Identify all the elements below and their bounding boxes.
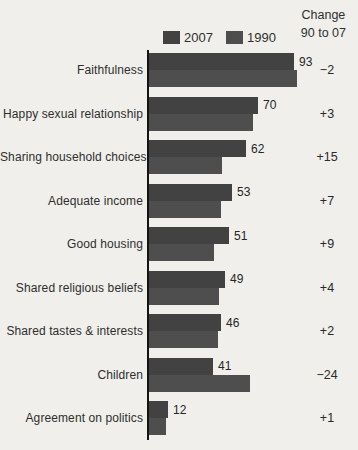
change-value: +15 (300, 150, 354, 164)
category-label: Children (0, 368, 143, 382)
bar-2007 (149, 227, 229, 244)
bar-1990 (149, 418, 166, 435)
change-column-header: Change 90 to 07 (301, 6, 346, 42)
change-value: +1 (300, 411, 354, 425)
bar-2007 (149, 401, 168, 418)
value-label: 53 (237, 185, 250, 199)
bar-2007 (149, 53, 294, 70)
category-label: Good housing (0, 237, 143, 251)
value-label: 49 (230, 272, 243, 286)
category-label: Adequate income (0, 194, 143, 208)
bar-1990 (149, 288, 219, 305)
legend-label-1990: 1990 (247, 30, 276, 45)
category-label: Agreement on politics (0, 411, 143, 425)
legend-label-2007: 2007 (184, 30, 213, 45)
value-label: 12 (173, 403, 186, 417)
category-label: Sharing household choices (0, 150, 143, 164)
bar-1990 (149, 114, 253, 131)
category-label: Shared tastes & interests (0, 324, 143, 338)
change-value: +4 (300, 281, 354, 295)
change-header-line2: 90 to 07 (301, 24, 346, 42)
change-value: +3 (300, 107, 354, 121)
value-label: 46 (226, 316, 239, 330)
bar-2007 (149, 358, 213, 375)
legend-swatch-1990 (226, 31, 243, 44)
category-label: Faithfulness (0, 63, 143, 77)
bar-2007 (149, 271, 225, 288)
bar-1990 (149, 331, 218, 348)
bar-1990 (149, 375, 250, 392)
bar-2007 (149, 97, 258, 114)
change-value: −2 (300, 63, 354, 77)
legend-swatch-2007 (163, 31, 180, 44)
value-label: 51 (234, 229, 247, 243)
change-header-line1: Change (301, 6, 346, 24)
change-value: +9 (300, 237, 354, 251)
bar-1990 (149, 70, 297, 87)
bar-1990 (149, 201, 221, 218)
change-value: +7 (300, 194, 354, 208)
category-label: Happy sexual relationship (0, 107, 143, 121)
value-label: 62 (251, 142, 264, 156)
change-value: +2 (300, 324, 354, 338)
value-label: 41 (218, 359, 231, 373)
bar-1990 (149, 244, 214, 261)
legend-item-2007: 2007 (163, 30, 213, 45)
bar-1990 (149, 157, 222, 174)
bar-2007 (149, 314, 221, 331)
bar-2007 (149, 140, 246, 157)
category-label: Shared religious beliefs (0, 281, 143, 295)
chart-figure: 2007 1990 Change 90 to 07 Faithfulness93… (0, 0, 358, 450)
bar-2007 (149, 184, 232, 201)
value-label: 70 (263, 98, 276, 112)
legend-item-1990: 1990 (226, 30, 276, 45)
change-value: −24 (300, 368, 354, 382)
